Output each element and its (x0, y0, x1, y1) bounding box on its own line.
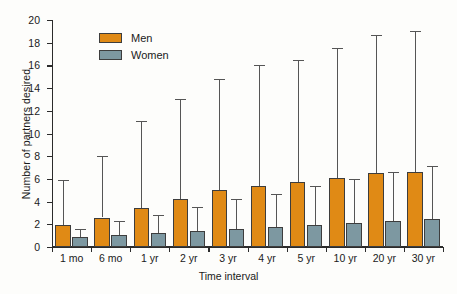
legend-item-women: Women (99, 47, 169, 62)
bar-men-30-yr (407, 172, 423, 247)
bar-men-10-yr (329, 178, 345, 247)
bar-men-5-yr (290, 182, 306, 247)
error-bar-cap (192, 207, 203, 208)
error-bar-line (63, 180, 64, 225)
legend-swatch-women (99, 50, 122, 60)
x-tick-label: 1 yr (141, 252, 159, 264)
x-tick-label: 6 mo (99, 252, 122, 264)
x-tick (248, 247, 249, 252)
y-tick: 6 (47, 179, 52, 180)
y-tick-label: 20 (28, 14, 40, 26)
y-tick: 8 (47, 156, 52, 157)
error-bar-cap (293, 60, 304, 61)
bar-men-2-yr (173, 199, 189, 247)
error-bar-line (276, 194, 277, 226)
legend-label-women: Women (131, 49, 169, 61)
x-tick-label: 20 yr (373, 252, 396, 264)
y-tick: 2 (47, 224, 52, 225)
legend: Men Women (99, 30, 169, 64)
error-bar-cap (254, 65, 265, 66)
error-bar-line (102, 156, 103, 217)
bar-women-10-yr (346, 223, 362, 247)
error-bar-line (298, 60, 299, 183)
y-tick-label: 12 (28, 105, 40, 117)
y-tick-label: 2 (34, 218, 40, 230)
error-bar-cap (75, 229, 86, 230)
y-tick: 16 (47, 65, 52, 66)
bar-men-1-mo (55, 225, 71, 247)
error-bar-line (236, 199, 237, 229)
error-bar-line (259, 65, 260, 186)
y-tick-label: 4 (34, 196, 40, 208)
x-tick-label: 1 mo (60, 252, 83, 264)
error-bar-cap (332, 48, 343, 49)
error-bar-cap (310, 186, 321, 187)
x-tick (169, 247, 170, 252)
y-tick-label: 18 (28, 37, 40, 49)
y-tick: 10 (47, 134, 52, 135)
error-bar-line (376, 35, 377, 173)
bar-men-20-yr (368, 173, 384, 247)
error-bar-line (80, 229, 81, 238)
y-tick-label: 16 (28, 59, 40, 71)
y-tick: 18 (47, 43, 52, 44)
bar-women-6-mo (111, 235, 127, 247)
error-bar-cap (231, 199, 242, 200)
x-tick (326, 247, 327, 252)
error-bar-cap (97, 156, 108, 157)
error-bar-line (354, 179, 355, 222)
bar-women-20-yr (385, 221, 401, 247)
x-tick-label: 5 yr (297, 252, 315, 264)
bar-men-1-yr (134, 208, 150, 247)
x-tick-label: 3 yr (219, 252, 237, 264)
y-tick-label: 14 (28, 82, 40, 94)
bar-men-3-yr (212, 190, 228, 247)
y-tick-label: 6 (34, 173, 40, 185)
x-tick (404, 247, 405, 252)
error-bar-line (197, 207, 198, 230)
x-tick (443, 247, 444, 252)
error-bar-line (180, 99, 181, 198)
error-bar-line (158, 215, 159, 233)
bar-women-2-yr (190, 231, 206, 247)
y-tick: 20 (47, 20, 52, 21)
x-tick (208, 247, 209, 252)
error-bar-line (393, 172, 394, 221)
bar-women-1-yr (151, 233, 167, 247)
bar-women-1-mo (72, 237, 88, 247)
y-axis-line (52, 20, 53, 247)
y-tick: 12 (47, 111, 52, 112)
bar-men-4-yr (251, 186, 267, 247)
legend-swatch-men (99, 33, 122, 43)
error-bar-line (432, 166, 433, 219)
error-bar-line (415, 31, 416, 171)
bar-women-3-yr (229, 229, 245, 247)
error-bar-cap (136, 121, 147, 122)
error-bar-line (141, 121, 142, 208)
error-bar-cap (349, 179, 360, 180)
error-bar-cap (114, 221, 125, 222)
y-tick: 4 (47, 202, 52, 203)
error-bar-line (219, 79, 220, 190)
error-bar-line (315, 186, 316, 225)
error-bar-line (337, 48, 338, 178)
x-tick (130, 247, 131, 252)
error-bar-cap (214, 79, 225, 80)
legend-item-men: Men (99, 30, 169, 45)
x-tick (52, 247, 53, 252)
y-tick-label: 0 (34, 241, 40, 253)
legend-label-men: Men (131, 32, 152, 44)
x-tick (365, 247, 366, 252)
x-tick-label: 10 yr (334, 252, 357, 264)
y-tick-label: 8 (34, 150, 40, 162)
error-bar-cap (427, 166, 438, 167)
error-bar-cap (371, 35, 382, 36)
x-tick-label: 4 yr (258, 252, 276, 264)
error-bar-cap (271, 194, 282, 195)
error-bar-cap (388, 172, 399, 173)
bar-women-4-yr (268, 227, 284, 247)
bar-men-6-mo (94, 218, 110, 248)
bar-women-30-yr (424, 219, 440, 247)
x-tick-label: 2 yr (180, 252, 198, 264)
error-bar-cap (175, 99, 186, 100)
